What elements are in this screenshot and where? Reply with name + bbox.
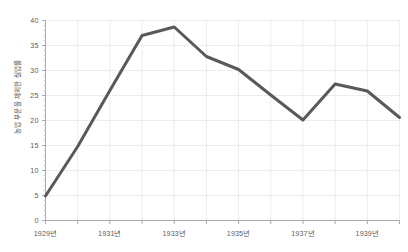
y-axis-tick-label: 0	[17, 216, 39, 225]
line-chart: 0510152025303540 1929년1931년1933년1935년193…	[0, 0, 408, 252]
x-axis-tick-label: 1939년	[345, 228, 389, 238]
y-axis-tick-label: 40	[17, 16, 39, 25]
x-axis-tick-label: 1931년	[88, 228, 132, 238]
y-axis-title: 농업 부문을 제외한 실업률	[12, 42, 22, 152]
y-axis-tick-label: 10	[17, 166, 39, 175]
x-axis-ticks	[46, 221, 400, 225]
x-axis-tick-label: 1933년	[152, 228, 196, 238]
x-axis-tick-label: 1929년	[24, 228, 68, 238]
chart-canvas	[0, 0, 408, 252]
x-axis-tick-label: 1935년	[217, 228, 261, 238]
y-axis-tick-label: 5	[17, 191, 39, 200]
x-axis-tick-label: 1937년	[281, 228, 325, 238]
y-axis-ticks	[42, 21, 46, 221]
